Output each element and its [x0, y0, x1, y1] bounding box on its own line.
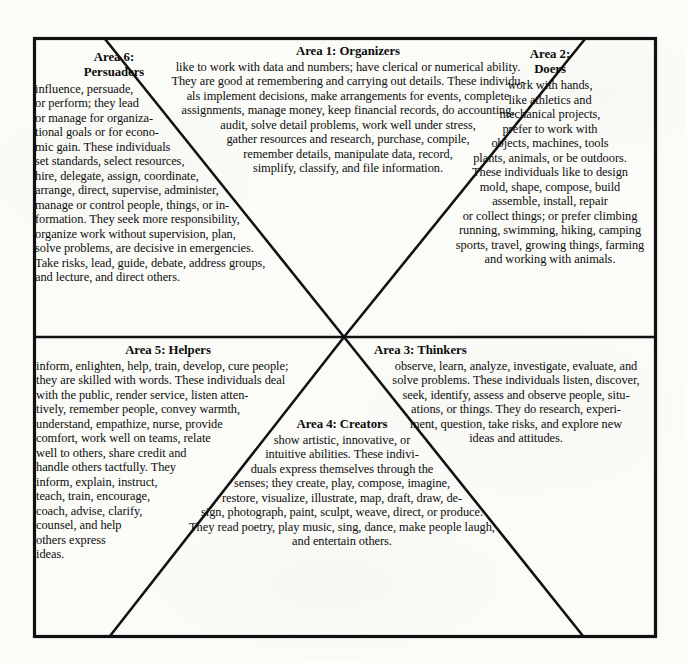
area-6-heading: Area 6: Persuaders	[35, 50, 315, 81]
area-6-body: influence, persuade, or perform; they le…	[35, 82, 315, 285]
area-2-heading: Area 2: Doers	[432, 47, 668, 77]
area-6-persuaders: Area 6: Persuaders influence, persuade, …	[35, 50, 315, 285]
area-5-body: inform, enlighten, help, train, develop,…	[36, 359, 326, 562]
area-3-heading: Area 3: Thinkers	[366, 343, 666, 358]
diagram-page: Area 1: Organizers like to work with dat…	[0, 0, 687, 663]
area-5-helpers: Area 5: Helpers inform, enlighten, help,…	[36, 343, 326, 562]
area-5-heading: Area 5: Helpers	[36, 343, 326, 358]
area-2-body: work with hands, like athletics and mech…	[432, 78, 668, 267]
area-2-doers: Area 2: Doers work with hands, like athl…	[432, 47, 668, 267]
